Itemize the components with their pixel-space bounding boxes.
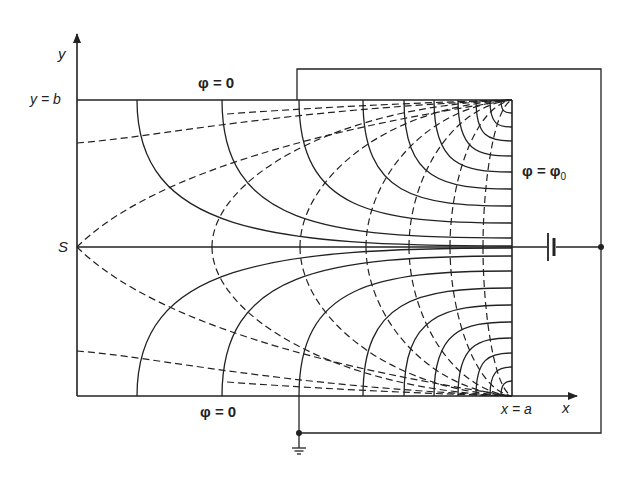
- y-axis-label: y: [58, 46, 66, 61]
- x-axis-label: x: [562, 400, 570, 415]
- electrode-potential-label: φ = φ0: [522, 163, 566, 182]
- equipotential-line: [77, 100, 512, 247]
- field-line: [458, 338, 512, 396]
- junction-dot-ground: [296, 430, 302, 436]
- equipotential-line: [409, 100, 512, 247]
- origin-s-label: S: [58, 239, 68, 254]
- equipotential-line: [366, 247, 512, 396]
- equipotential-line: [366, 100, 512, 247]
- x-eq-a-label: x = a: [501, 402, 532, 416]
- ground-icon: [292, 448, 306, 454]
- field-line: [363, 100, 512, 206]
- equipotential-line: [77, 100, 512, 143]
- equipotential-line: [300, 100, 512, 247]
- y-eq-b-label: y = b: [30, 92, 61, 106]
- bottom-boundary-label: φ = 0: [200, 404, 236, 419]
- junction-dot-right: [598, 244, 604, 250]
- equipotential-line: [212, 247, 512, 396]
- equipotential-line: [483, 100, 512, 247]
- equipotential-line: [77, 351, 512, 396]
- equipotential-line: [77, 247, 512, 396]
- equipotential-line: [212, 100, 512, 247]
- field-line: [222, 100, 512, 238]
- phi-label-text: φ = φ0: [522, 162, 566, 179]
- field-line: [363, 288, 512, 396]
- field-diagram: [0, 0, 635, 478]
- field-line: [458, 100, 512, 156]
- field-curves: [77, 100, 512, 396]
- field-line: [501, 381, 512, 396]
- equipotential-line: [409, 247, 512, 396]
- top-boundary-label: φ = 0: [198, 75, 234, 90]
- battery-icon: [548, 233, 554, 261]
